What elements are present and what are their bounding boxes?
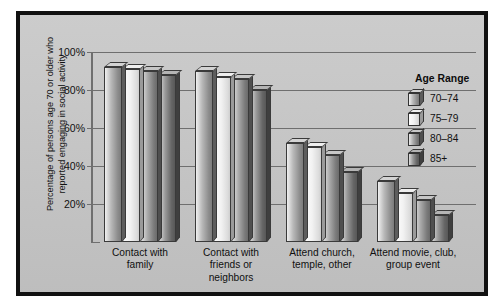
legend-label: 75–79 [430, 113, 458, 124]
bar [377, 181, 395, 242]
bar-group [104, 52, 176, 242]
legend-swatch-face [408, 93, 420, 106]
bar-side [304, 138, 308, 242]
legend-rows: 70–7475–7980–8485+ [406, 90, 490, 170]
y-axis-line [91, 52, 93, 243]
chart-figure: Percentage of persons age 70 or older wh… [16, 11, 488, 296]
bar-side [395, 176, 399, 242]
bar [104, 67, 122, 242]
chart-plate: Percentage of persons age 70 or older wh… [20, 15, 484, 292]
y-tick-mark [87, 128, 93, 129]
legend-swatch-face [408, 133, 420, 146]
bar-side [267, 85, 271, 242]
bar [195, 71, 213, 242]
legend-item[interactable]: 85+ [406, 150, 490, 170]
legend-item[interactable]: 70–74 [406, 90, 490, 110]
bar-side [431, 195, 435, 242]
legend: Age Range 70–7475–7980–8485+ [406, 73, 490, 170]
bar-side [176, 70, 180, 242]
category-label-line: group event [359, 259, 467, 271]
y-axis-foot [91, 242, 100, 244]
bar-group [195, 52, 267, 242]
y-tick-mark [87, 90, 93, 91]
legend-swatch [408, 93, 420, 106]
bar-group [286, 52, 358, 242]
y-tick-mark [87, 204, 93, 205]
bar-side [231, 72, 235, 242]
legend-item[interactable]: 75–79 [406, 110, 490, 130]
legend-label: 85+ [430, 153, 447, 164]
legend-title: Age Range [415, 73, 490, 84]
bar-side [158, 66, 162, 242]
bar-side [322, 142, 326, 242]
legend-swatch [408, 153, 420, 166]
y-tick-mark [87, 52, 93, 53]
bar-face [195, 71, 213, 242]
category-label: Attend movie, club,group event [359, 247, 467, 272]
legend-swatch [408, 113, 420, 126]
bar-face [377, 181, 395, 242]
legend-item[interactable]: 80–84 [406, 130, 490, 150]
bar-side [413, 187, 417, 242]
y-tick-label: 100% [58, 46, 85, 58]
legend-label: 70–74 [430, 93, 458, 104]
bar-side [140, 64, 144, 242]
y-tick-mark [87, 166, 93, 167]
legend-label: 80–84 [430, 133, 458, 144]
bar-side [358, 167, 362, 242]
bar-side [249, 73, 253, 242]
y-tick-label: 40% [64, 160, 85, 172]
y-tick-label: 60% [64, 122, 85, 134]
y-tick-label: 80% [64, 84, 85, 96]
bar-side [449, 210, 453, 242]
y-tick-label: 20% [64, 198, 85, 210]
category-label-line: neighbors [177, 272, 285, 284]
legend-swatch-face [408, 113, 420, 126]
bar-face [286, 143, 304, 242]
bar [286, 143, 304, 242]
bar-side [340, 149, 344, 242]
bar-side [122, 62, 126, 242]
legend-swatch-face [408, 153, 420, 166]
bar-side [213, 66, 217, 242]
legend-swatch [408, 133, 420, 146]
category-label-line: Attend movie, club, [359, 247, 467, 259]
bar-face [104, 67, 122, 242]
